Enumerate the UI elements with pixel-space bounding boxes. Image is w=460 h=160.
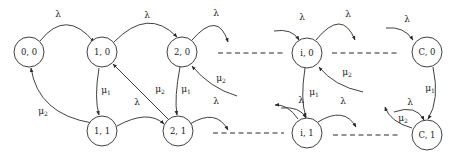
state-node-i-0[interactable]: i, 0 xyxy=(292,38,322,68)
edge-rate-label: μ1 xyxy=(309,87,319,98)
node-label: C, 0 xyxy=(418,47,435,57)
edge-into-i0-lambda xyxy=(274,30,299,40)
edge-20-out-lambda xyxy=(192,25,228,42)
state-node-1-1[interactable]: 1, 1 xyxy=(87,116,117,146)
state-node-i-1[interactable]: i, 1 xyxy=(292,118,322,148)
edge-rate-label: λ xyxy=(404,14,410,24)
edge-rate-label: λ xyxy=(55,9,61,19)
edge-20-to-21-mu1 xyxy=(176,67,180,115)
edge-i0-out-lambda xyxy=(316,24,355,40)
state-node-2-1[interactable]: 2, 1 xyxy=(163,116,193,146)
edge-rate-label: λ xyxy=(298,95,304,105)
edge-into-20-mu2 xyxy=(192,66,237,96)
edge-i1-out-right-lambda xyxy=(318,115,356,127)
state-node-C-1[interactable]: C, 1 xyxy=(412,120,442,150)
edge-rate-label: λ xyxy=(144,10,150,20)
edge-i0-to-i1-mu1 xyxy=(303,68,306,117)
edge-21-out-lambda xyxy=(190,117,228,130)
edges-group xyxy=(31,23,436,130)
edge-rate-label: λ xyxy=(345,9,351,19)
edge-rate-label: λ xyxy=(299,12,305,22)
edge-10-to-20-lambda xyxy=(114,23,177,42)
edge-10-to-11-mu1 xyxy=(97,68,100,115)
node-label: i, 1 xyxy=(300,128,314,138)
edge-rate-label: λ xyxy=(407,97,413,107)
edge-rate-label: μ1 xyxy=(425,83,435,94)
edge-11-to-21-lambda xyxy=(117,117,164,126)
edge-into-i0-mu2 xyxy=(319,67,363,92)
nodes-group: 0, 0 1, 0 2, 0 i, 0 C, 0 1, 1 xyxy=(14,37,442,150)
node-label: 2, 0 xyxy=(174,47,190,57)
node-label: i, 0 xyxy=(300,48,314,58)
markov-chain-diagram: 0, 0 1, 0 2, 0 i, 0 C, 0 1, 1 xyxy=(0,0,460,160)
node-label: C, 1 xyxy=(418,130,435,140)
state-node-0-0[interactable]: 0, 0 xyxy=(14,37,44,67)
diagram-canvas: 0, 0 1, 0 2, 0 i, 0 C, 0 1, 1 xyxy=(0,0,460,160)
edge-rate-label: μ1 xyxy=(181,84,191,95)
edge-rate-label: μ2 xyxy=(342,67,352,78)
edge-rate-label: λ xyxy=(340,96,346,106)
state-node-C-0[interactable]: C, 0 xyxy=(412,37,442,67)
node-label: 1, 1 xyxy=(94,126,110,136)
edge-rate-label: λ xyxy=(134,97,140,107)
edge-rate-label: μ2 xyxy=(155,84,165,95)
edge-rate-label: μ2 xyxy=(38,106,48,117)
node-label: 1, 0 xyxy=(94,47,110,57)
node-label: 2, 1 xyxy=(170,126,186,136)
edge-rate-label: λ xyxy=(213,96,219,106)
node-label: 0, 0 xyxy=(21,47,37,57)
edge-00-to-10-lambda xyxy=(40,25,94,42)
state-node-2-0[interactable]: 2, 0 xyxy=(167,37,197,67)
edge-rate-label: μ1 xyxy=(101,85,111,96)
edge-rate-label: μ2 xyxy=(398,113,408,124)
edge-into-C0-lambda xyxy=(386,28,413,40)
edge-rate-label: λ xyxy=(213,8,219,18)
state-node-1-0[interactable]: 1, 0 xyxy=(87,37,117,67)
edge-i1-out-left-lambda xyxy=(275,105,298,119)
edge-rate-label: μ2 xyxy=(216,73,226,84)
